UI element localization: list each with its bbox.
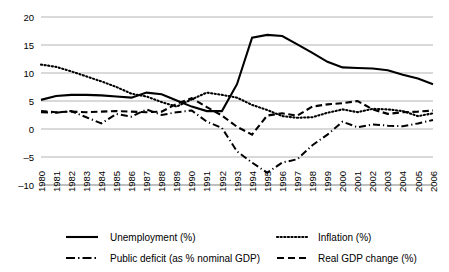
chart-legend: Unemployment (%)Inflation (%)Public defi…	[66, 232, 417, 264]
series-line-public-deficit-as-nominal-gdp	[41, 109, 433, 172]
x-tick-label: 1996	[277, 171, 288, 192]
x-tick-label: 1987	[141, 171, 152, 192]
x-tick-label: 1999	[322, 171, 333, 192]
x-tick-label: 1989	[171, 171, 182, 192]
x-tick-label: 1993	[232, 171, 243, 192]
x-tick-label: 2003	[382, 171, 393, 192]
gridlines	[41, 17, 433, 185]
x-tick-label: 1980	[36, 171, 47, 192]
y-tick-label: 5	[29, 96, 34, 107]
x-tick-label: 1986	[126, 171, 137, 192]
x-tick-label: 1983	[81, 171, 92, 192]
x-tick-label: 2002	[367, 171, 378, 192]
x-tick-label: 1994	[247, 171, 258, 192]
y-tick-label: 15	[23, 40, 34, 51]
x-tick-label: 1990	[186, 171, 197, 192]
y-tick-label: 10	[23, 68, 34, 79]
y-tick-label: –10	[18, 180, 34, 191]
x-tick-label: 1998	[307, 171, 318, 192]
x-tick-label: 1997	[292, 171, 303, 192]
x-tick-label: 2001	[352, 171, 363, 192]
x-tick-label: 1995	[262, 171, 273, 192]
x-tick-label: 2004	[397, 171, 408, 192]
x-tick-label: 2006	[428, 171, 439, 192]
chart-container: –10–505101520 19801981198219831984198519…	[0, 0, 449, 272]
legend-label: Real GDP change (%)	[318, 253, 417, 264]
legend-label: Inflation (%)	[318, 232, 371, 243]
y-tick-label: 0	[29, 124, 34, 135]
x-tick-label: 2005	[413, 171, 424, 192]
x-tick-label: 1981	[51, 171, 62, 192]
x-tick-label: 1982	[66, 171, 77, 192]
x-tick-label: 1991	[201, 171, 212, 192]
x-tick-label: 1985	[111, 171, 122, 192]
y-tick-label: 20	[23, 12, 34, 23]
x-tick-label: 1984	[96, 171, 107, 192]
x-tick-label: 2000	[337, 171, 348, 192]
macroeconomic-indicators-line-chart: –10–505101520 19801981198219831984198519…	[0, 0, 449, 272]
y-axis-tick-labels: –10–505101520	[18, 12, 34, 191]
legend-label: Unemployment (%)	[110, 232, 196, 243]
legend-label: Public deficit (as % nominal GDP)	[110, 253, 260, 264]
x-tick-label: 1988	[156, 171, 167, 192]
series-layer	[41, 35, 433, 173]
x-tick-label: 1992	[217, 171, 228, 192]
x-axis-tick-labels: 1980198119821983198419851986198719881989…	[36, 171, 439, 192]
y-tick-label: –5	[23, 152, 34, 163]
